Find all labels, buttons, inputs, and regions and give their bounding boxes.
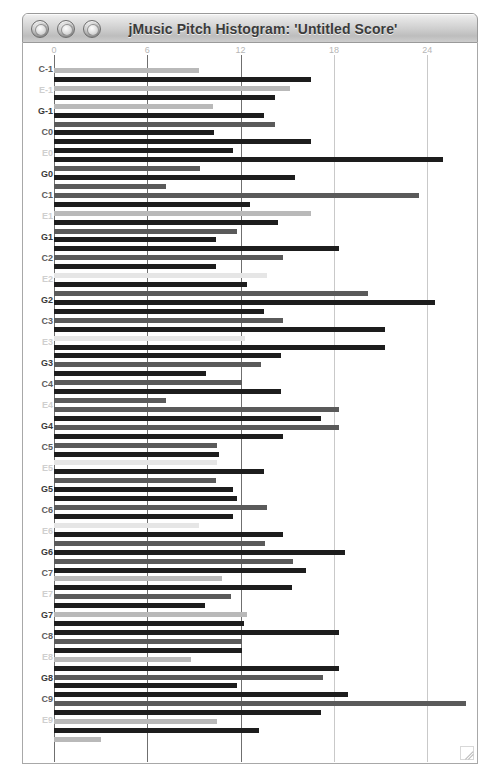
histogram-bar xyxy=(54,211,311,216)
histogram-bar xyxy=(54,175,295,180)
histogram-bar xyxy=(54,425,339,430)
histogram-bar xyxy=(54,300,435,305)
histogram-bar xyxy=(54,220,278,225)
histogram-bar xyxy=(54,184,166,189)
histogram-bar xyxy=(54,478,216,483)
histogram-bar xyxy=(54,594,231,599)
histogram-bar xyxy=(54,113,264,118)
pitch-label-E7: E7 xyxy=(23,589,53,599)
histogram-bar xyxy=(54,246,339,251)
histogram-bar xyxy=(54,157,443,162)
histogram-bar xyxy=(54,434,283,439)
pitch-label-G-1: G-1 xyxy=(23,106,53,116)
pitch-label-C6: C6 xyxy=(23,505,53,515)
histogram-bar xyxy=(54,585,292,590)
histogram-bar xyxy=(54,701,466,706)
histogram-bar xyxy=(54,460,217,465)
histogram-bar xyxy=(54,630,339,635)
histogram-bar xyxy=(54,264,216,269)
histogram-bar xyxy=(54,621,244,626)
pitch-label-E9: E9 xyxy=(23,715,53,725)
pitch-label-E4: E4 xyxy=(23,400,53,410)
pitch-label-C8: C8 xyxy=(23,631,53,641)
histogram-bar xyxy=(54,675,323,680)
pitch-histogram-chart: 06121824C-1E-1G-1C0E0G0C1E1G1C2E2G2C3E3G… xyxy=(23,43,477,762)
histogram-bar xyxy=(54,452,219,457)
histogram-bar xyxy=(54,380,242,385)
pitch-label-E1: E1 xyxy=(23,211,53,221)
histogram-bar xyxy=(54,345,385,350)
histogram-bar xyxy=(54,532,283,537)
histogram-bar xyxy=(54,362,261,367)
pitch-label-C-1: C-1 xyxy=(23,64,53,74)
histogram-bar xyxy=(54,130,214,135)
histogram-bar xyxy=(54,719,217,724)
resize-grip[interactable] xyxy=(460,746,475,761)
histogram-bar xyxy=(54,371,206,376)
histogram-bar xyxy=(54,202,250,207)
pitch-label-E2: E2 xyxy=(23,274,53,284)
histogram-bar xyxy=(54,603,205,608)
histogram-bar xyxy=(54,416,321,421)
histogram-bar xyxy=(54,728,259,733)
histogram-bar xyxy=(54,139,311,144)
histogram-bar xyxy=(54,407,339,412)
pitch-label-C3: C3 xyxy=(23,316,53,326)
histogram-bar xyxy=(54,666,339,671)
pitch-label-E6: E6 xyxy=(23,526,53,536)
x-axis-tick-0: 0 xyxy=(51,45,56,55)
histogram-bar xyxy=(54,291,368,296)
histogram-bar xyxy=(54,541,265,546)
pitch-label-C7: C7 xyxy=(23,568,53,578)
histogram-bar xyxy=(54,550,345,555)
histogram-bar xyxy=(54,496,237,501)
histogram-bar xyxy=(54,68,199,73)
histogram-bar xyxy=(54,559,293,564)
pitch-label-G5: G5 xyxy=(23,484,53,494)
histogram-bar xyxy=(54,122,275,127)
histogram-bar xyxy=(54,255,283,260)
histogram-bar xyxy=(54,648,242,653)
histogram-bar xyxy=(54,469,264,474)
histogram-bar xyxy=(54,612,247,617)
histogram-bar xyxy=(54,237,216,242)
histogram-bar xyxy=(54,336,245,341)
histogram-bar xyxy=(54,576,222,581)
histogram-bar xyxy=(54,710,321,715)
pitch-label-C0: C0 xyxy=(23,127,53,137)
pitch-label-E3: E3 xyxy=(23,337,53,347)
window-titlebar[interactable]: jMusic Pitch Histogram: 'Untitled Score' xyxy=(22,13,478,43)
histogram-bar xyxy=(54,166,200,171)
pitch-label-E8: E8 xyxy=(23,652,53,662)
histogram-bar xyxy=(54,77,311,82)
pitch-label-C5: C5 xyxy=(23,442,53,452)
histogram-bar xyxy=(54,398,166,403)
histogram-bar xyxy=(54,353,281,358)
x-axis-tick-18: 18 xyxy=(329,45,339,55)
histogram-bar xyxy=(54,683,237,688)
pitch-label-C9: C9 xyxy=(23,694,53,704)
histogram-bar xyxy=(54,487,233,492)
histogram-bar xyxy=(54,309,264,314)
pitch-label-G6: G6 xyxy=(23,547,53,557)
histogram-bar xyxy=(54,514,233,519)
pitch-label-G7: G7 xyxy=(23,610,53,620)
histogram-bar xyxy=(54,692,348,697)
histogram-window: jMusic Pitch Histogram: 'Untitled Score'… xyxy=(0,0,500,777)
pitch-label-G1: G1 xyxy=(23,232,53,242)
pitch-label-G0: G0 xyxy=(23,169,53,179)
x-axis-tick-24: 24 xyxy=(422,45,432,55)
histogram-bar xyxy=(54,657,191,662)
histogram-bar xyxy=(54,505,267,510)
pitch-label-G4: G4 xyxy=(23,421,53,431)
histogram-bar xyxy=(54,86,290,91)
pitch-label-C1: C1 xyxy=(23,190,53,200)
histogram-bar xyxy=(54,737,101,742)
pitch-label-C4: C4 xyxy=(23,379,53,389)
histogram-bar xyxy=(54,95,275,100)
histogram-bar xyxy=(54,389,281,394)
pitch-label-E-1: E-1 xyxy=(23,85,53,95)
window-content: 06121824C-1E-1G-1C0E0G0C1E1G1C2E2G2C3E3G… xyxy=(22,43,478,764)
histogram-bar xyxy=(54,568,306,573)
histogram-bar xyxy=(54,148,233,153)
